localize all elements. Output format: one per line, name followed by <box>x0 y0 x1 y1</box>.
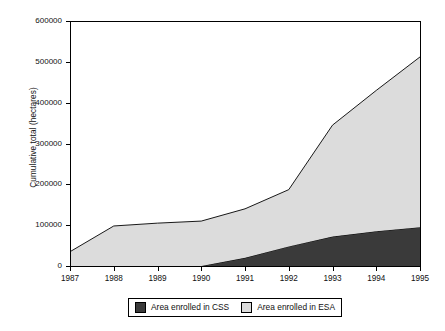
chart-plot <box>0 0 445 331</box>
chart-figure: Cumulative total (hectares) 010000020000… <box>0 0 445 331</box>
y-axis-line <box>70 21 71 267</box>
legend-swatch-icon <box>241 302 252 313</box>
chart-legend: Area enrolled in CSSArea enrolled in ESA <box>128 298 342 317</box>
legend-entry[interactable]: Area enrolled in CSS <box>135 302 229 313</box>
legend-entry[interactable]: Area enrolled in ESA <box>241 302 335 313</box>
legend-label: Area enrolled in ESA <box>257 303 335 312</box>
legend-label: Area enrolled in CSS <box>151 303 229 312</box>
x-axis-line <box>70 266 421 267</box>
plot-frame-right <box>420 21 421 267</box>
legend-swatch-icon <box>135 302 146 313</box>
plot-frame-top <box>70 21 421 22</box>
